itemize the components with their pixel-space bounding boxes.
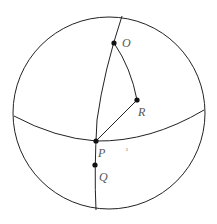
sphere-outline [13, 17, 205, 209]
label-R: R [137, 105, 146, 119]
label-P: P [97, 146, 106, 160]
sphere-diagram: O R P Q ı [0, 0, 217, 224]
tick-mark: ı [126, 145, 128, 153]
point-O [111, 40, 116, 45]
label-Q: Q [99, 170, 108, 184]
point-P [93, 138, 98, 143]
point-R [134, 97, 139, 102]
segment-P-R [96, 100, 137, 141]
label-O: O [122, 36, 131, 50]
equator-arc [14, 110, 204, 141]
arc-O-R [114, 43, 137, 100]
point-Q [92, 162, 97, 167]
